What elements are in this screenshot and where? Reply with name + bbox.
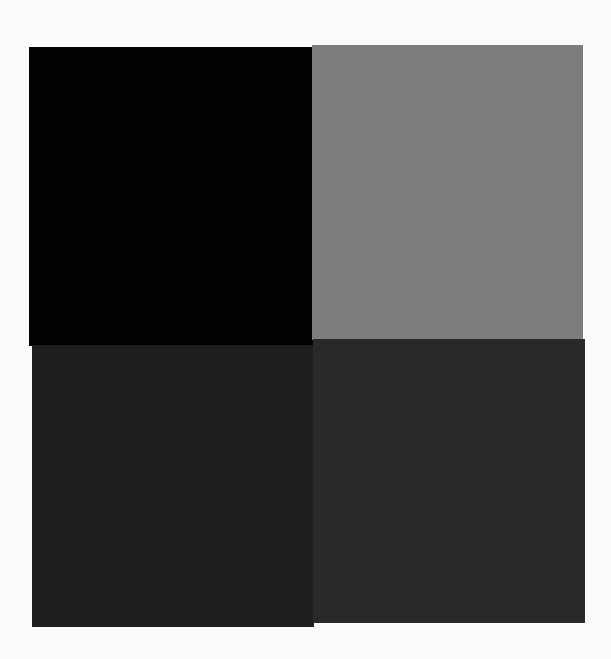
swatch-bottom-right-dark-gray (313, 339, 585, 623)
swatch-top-right-mid-gray (312, 45, 583, 340)
swatch-top-left-black (29, 47, 313, 346)
swatch-bottom-left-dark-gray (32, 345, 314, 627)
